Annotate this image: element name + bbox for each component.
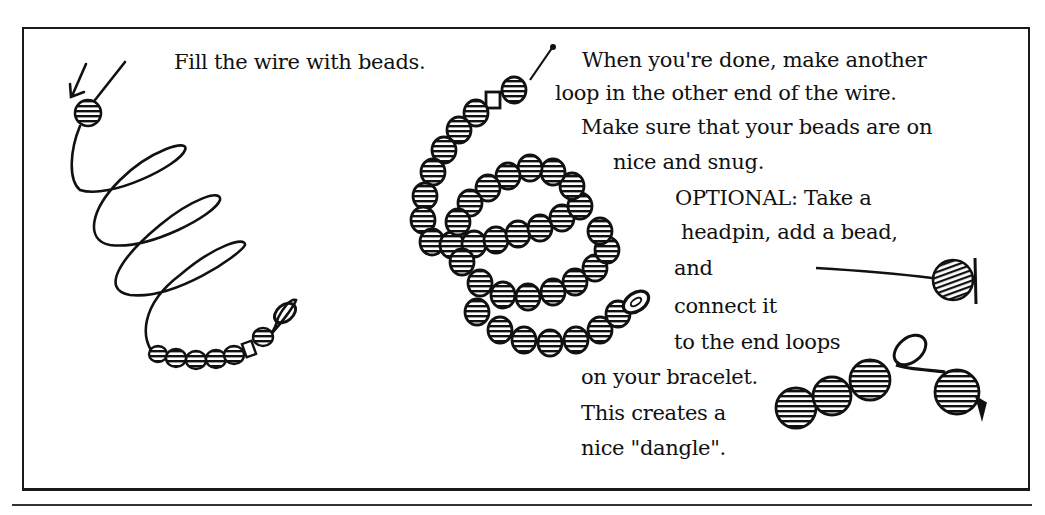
optional-line-3: and xyxy=(674,258,713,279)
step-fill-text: Fill the wire with beads. xyxy=(174,52,425,73)
bottom-beads xyxy=(149,299,299,369)
bead-icon xyxy=(75,100,101,126)
optional-line-8: nice "dangle". xyxy=(581,438,726,459)
optional-line-5: to the end loops xyxy=(674,332,840,353)
optional-line-4: connect it xyxy=(674,296,777,317)
illustrations-layer xyxy=(0,0,1045,515)
wire-coil-illustration xyxy=(70,62,296,355)
step-loop-line-1: When you're done, make another xyxy=(582,50,926,71)
optional-line-7: This creates a xyxy=(581,403,726,424)
optional-line-6: on your bracelet. xyxy=(581,367,758,388)
step-loop-line-2: loop in the other end of the wire. xyxy=(555,83,897,104)
optional-line-1: OPTIONAL: Take a xyxy=(675,188,872,209)
step-loop-line-3: Make sure that your beads are on xyxy=(581,117,932,138)
arrow-icon xyxy=(70,64,86,97)
headpin-illustration xyxy=(816,258,976,304)
optional-line-2: headpin, add a bead, xyxy=(681,222,898,243)
step-loop-line-4: nice and snug. xyxy=(613,152,764,173)
